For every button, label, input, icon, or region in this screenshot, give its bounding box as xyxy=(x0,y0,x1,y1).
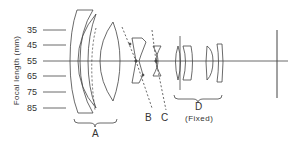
zoom-lens-diagram: Focal length (mm) 35 45 55 65 75 85 A B … xyxy=(0,0,298,142)
tick-label-65: 65 xyxy=(27,72,37,81)
group-d-label: D xyxy=(195,102,202,112)
group-d-element-4 xyxy=(217,44,223,82)
tick-label-35: 35 xyxy=(27,26,37,35)
group-d-fixed-note: (Fixed) xyxy=(185,115,213,123)
group-b-dot xyxy=(129,43,131,45)
group-c-label: C xyxy=(161,113,168,123)
group-a-label: A xyxy=(92,129,99,139)
tick-label-85: 85 xyxy=(27,104,37,113)
group-c-path xyxy=(152,30,166,110)
group-b-path xyxy=(122,27,152,108)
tick-label-45: 45 xyxy=(27,41,37,50)
group-d-element-3 xyxy=(206,46,213,80)
group-a-element-3 xyxy=(100,22,120,101)
tick-label-55: 55 xyxy=(27,57,37,66)
group-c-dot xyxy=(155,60,157,62)
group-b-element xyxy=(132,38,146,83)
y-axis-label: Focal length (mm) xyxy=(12,33,21,109)
group-b-dot xyxy=(142,74,144,76)
group-b-label: B xyxy=(145,113,152,123)
tick-label-75: 75 xyxy=(27,88,37,97)
group-d-element-2 xyxy=(183,46,193,80)
brace-a xyxy=(74,119,117,127)
group-a-element-1 xyxy=(70,10,93,113)
group-b-dot xyxy=(135,60,137,62)
